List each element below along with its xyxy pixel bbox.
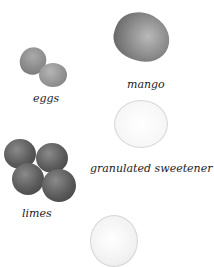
limes-image <box>4 139 78 203</box>
label-granulated-sweetener: granulated sweetener <box>90 162 212 175</box>
label-eggs: eggs <box>33 92 59 105</box>
eggs-image <box>17 45 72 90</box>
lime <box>42 169 76 202</box>
egg-right <box>39 63 67 87</box>
label-mango: mango <box>127 78 165 91</box>
lime <box>12 163 44 195</box>
bowl-image <box>90 215 138 267</box>
sweetener-bowl-image <box>114 100 168 148</box>
label-limes: limes <box>22 207 52 220</box>
mango-image <box>107 5 176 69</box>
